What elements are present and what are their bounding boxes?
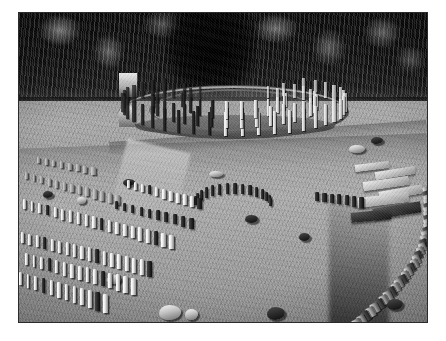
stone-pillar bbox=[93, 269, 97, 284]
sanctuary-post bbox=[163, 108, 166, 131]
sanctuary-post bbox=[151, 106, 154, 128]
stone-pillar bbox=[131, 226, 135, 239]
stone-pillar bbox=[127, 180, 130, 188]
stone-pillar bbox=[34, 276, 37, 290]
stone-pillar bbox=[147, 261, 152, 277]
stone-pillar bbox=[68, 163, 72, 170]
stone-pillar bbox=[255, 187, 258, 197]
sanctuary-post bbox=[314, 106, 317, 128]
stone-pillar bbox=[176, 193, 180, 203]
sanctuary-post bbox=[172, 103, 175, 123]
stone-pillar bbox=[131, 278, 136, 295]
sanctuary-post bbox=[123, 96, 126, 116]
stone-pillar bbox=[40, 176, 43, 184]
stone-pillar bbox=[115, 201, 118, 209]
stone-pillar bbox=[189, 218, 194, 229]
sanctuary-post bbox=[324, 82, 327, 98]
stone-pillar bbox=[43, 237, 46, 249]
stone-pillar bbox=[65, 284, 69, 300]
stone-pillar bbox=[63, 182, 66, 190]
stone-pillar bbox=[33, 255, 36, 267]
stone-pillar bbox=[85, 187, 89, 196]
stone-pillar bbox=[226, 183, 229, 194]
stone-pillar bbox=[31, 201, 34, 211]
stone-pillar bbox=[103, 294, 108, 313]
sanctuary-post bbox=[126, 99, 129, 120]
stone-pillar bbox=[261, 189, 264, 199]
boulder bbox=[245, 215, 258, 223]
stone-pillar bbox=[21, 232, 24, 243]
stone-pillar bbox=[78, 266, 82, 281]
stone-pillar bbox=[218, 184, 221, 195]
stone-pillar bbox=[205, 187, 208, 197]
stone-pillar bbox=[156, 210, 160, 220]
sanctuary-post bbox=[132, 101, 135, 122]
stone-pillar bbox=[162, 189, 166, 199]
sanctuary-post bbox=[324, 104, 327, 126]
sanctuary-post bbox=[254, 100, 257, 118]
stone-pillar bbox=[197, 198, 202, 209]
sanctuary-post bbox=[267, 86, 270, 98]
stone-pillar bbox=[42, 278, 45, 293]
stone-pillar bbox=[54, 207, 57, 218]
stone-pillar bbox=[60, 161, 63, 168]
sanctuary-post bbox=[269, 106, 272, 127]
stone-pillar bbox=[51, 239, 54, 251]
stone-pillar bbox=[181, 216, 185, 227]
sanctuary-post bbox=[172, 84, 175, 98]
stone-pillar bbox=[154, 231, 158, 245]
stone-pillar bbox=[50, 280, 53, 295]
stone-pillar bbox=[241, 184, 244, 195]
stone-pillar bbox=[148, 185, 151, 194]
stone-pillar bbox=[134, 182, 137, 190]
stone-pillar bbox=[77, 212, 80, 224]
stone-pillar bbox=[83, 166, 87, 174]
sanctuary-post bbox=[141, 104, 144, 126]
stone-pillar bbox=[190, 196, 194, 207]
photo-frame: Aerial view of an archaeological sanctua… bbox=[18, 12, 428, 323]
sanctuary-post bbox=[199, 86, 202, 98]
sanctuary-post bbox=[196, 106, 199, 127]
stone-pillar bbox=[91, 167, 96, 175]
boulder bbox=[371, 137, 383, 144]
photograph bbox=[19, 13, 427, 322]
stone-pillar bbox=[85, 214, 88, 226]
stone-pillar bbox=[183, 194, 187, 204]
sanctuary-post bbox=[183, 104, 186, 124]
sanctuary-post bbox=[302, 108, 305, 131]
stone-pillar bbox=[101, 271, 105, 287]
sanctuary-post bbox=[163, 86, 166, 100]
stone-pillar bbox=[58, 241, 61, 254]
stone-pillar bbox=[95, 292, 99, 311]
sanctuary-post bbox=[177, 110, 180, 133]
stone-pillar bbox=[55, 180, 58, 188]
sanctuary-post bbox=[199, 99, 202, 116]
stone-pillar bbox=[100, 218, 104, 230]
stone-pillar bbox=[19, 272, 22, 285]
stone-pillar bbox=[269, 198, 272, 206]
stone-pillar bbox=[117, 254, 121, 269]
stone-pillar bbox=[132, 258, 136, 273]
stone-pillar bbox=[115, 222, 119, 235]
stone-pillar bbox=[141, 184, 144, 193]
stone-pillar bbox=[92, 216, 96, 228]
stone-pillar bbox=[95, 249, 99, 263]
sanctuary-post bbox=[141, 82, 144, 98]
stone-pillar bbox=[78, 185, 82, 194]
stone-pillar bbox=[173, 214, 177, 224]
stone-pillar bbox=[33, 174, 36, 181]
sanctuary-post bbox=[276, 97, 279, 113]
stone-pillar bbox=[40, 257, 43, 270]
sanctuary-post bbox=[211, 100, 214, 118]
stone-pillar bbox=[66, 242, 69, 255]
stone-pillar bbox=[108, 193, 112, 203]
stone-pillar bbox=[73, 286, 77, 303]
sanctuary-post bbox=[342, 96, 345, 116]
boulder bbox=[387, 299, 403, 310]
stone-pillar bbox=[46, 205, 49, 216]
stone-pillar bbox=[48, 178, 51, 186]
stone-pillar bbox=[330, 194, 334, 204]
sanctuary-post bbox=[273, 111, 276, 135]
stone-pillar bbox=[48, 258, 51, 271]
stone-pillar bbox=[37, 157, 40, 163]
